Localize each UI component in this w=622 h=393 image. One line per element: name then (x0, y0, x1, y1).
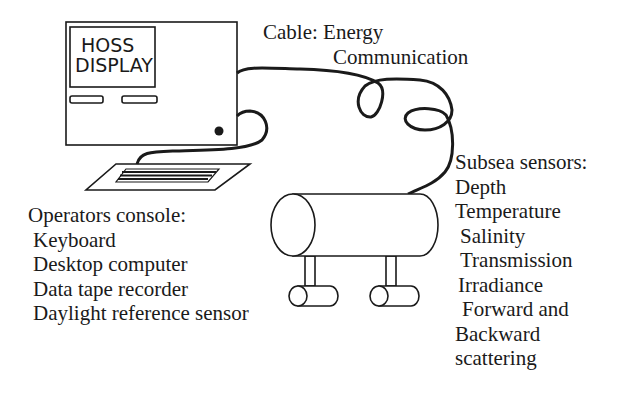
sensor-item: Forward and (455, 297, 587, 322)
subsea-sensors-title: Subsea sensors: (455, 150, 587, 175)
sensor-item: Depth (455, 175, 587, 200)
operators-console-title: Operators console: (28, 203, 249, 228)
console-item: Daylight reference sensor (28, 301, 249, 326)
sensor-item: Transmission (455, 248, 587, 273)
sensor-item: Salinity (455, 224, 587, 249)
sensor-item: scattering (455, 346, 587, 371)
subsea-sensor-unit-icon (271, 194, 438, 306)
cable-label-line-2: Communication (263, 45, 468, 70)
console-item: Data tape recorder (28, 277, 249, 302)
screen-line-1: HOSS (75, 35, 153, 55)
operators-console-label: Operators console: Keyboard Desktop comp… (28, 203, 249, 326)
cable-label-line-1: Cable: Energy (263, 20, 468, 45)
cable-label: Cable: Energy Communication (263, 20, 468, 69)
sensor-item: Temperature (455, 199, 587, 224)
subsea-sensors-label: Subsea sensors: Depth Temperature Salini… (455, 150, 587, 371)
sensor-item: Irradiance (455, 273, 587, 298)
console-item: Keyboard (28, 228, 249, 253)
keyboard-icon (86, 164, 250, 190)
screen-line-2: DISPLAY (75, 55, 153, 75)
energy-communication-cable (237, 68, 453, 194)
monitor-screen-text: HOSS DISPLAY (75, 35, 153, 75)
sensor-item: Backward (455, 322, 587, 347)
console-item: Desktop computer (28, 252, 249, 277)
